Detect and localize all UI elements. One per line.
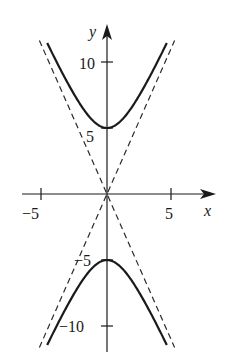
y-tick-label-neg5: −5 [74,252,91,269]
y-tick-label-5: 5 [86,128,94,145]
y-axis-label: y [87,23,97,41]
x-axis-label: x [203,202,211,219]
x-tick-label-neg5: −5 [22,205,39,222]
y-tick-label-neg10: −10 [59,318,84,335]
x-tick-label-5: 5 [165,205,173,222]
y-tick-label-10: 10 [79,55,95,72]
hyperbola-plot: y x −5 5 10 5 −5 −10 [0,0,226,361]
